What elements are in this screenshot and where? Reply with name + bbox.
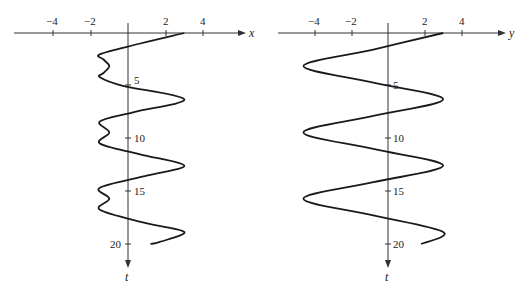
t-tick-label: 15 — [134, 185, 146, 197]
t-tick-label: 20 — [110, 238, 122, 250]
y-tick-label: 4 — [459, 15, 465, 27]
y-axis-label: y — [508, 26, 515, 40]
y-of-t-curve — [303, 33, 444, 244]
t-axis-arrow-icon — [385, 260, 391, 268]
t-tick-label: 20 — [393, 238, 405, 250]
x-axis-label: x — [248, 26, 255, 40]
t-tick-label: 10 — [134, 132, 146, 144]
x-tick-label: −4 — [46, 15, 58, 27]
t-tick-label: 10 — [393, 132, 405, 144]
x-tick-label: 4 — [200, 15, 206, 27]
t-tick-label: 5 — [134, 74, 140, 86]
y-tick-label: −4 — [308, 15, 320, 27]
t-axis-label: t — [125, 270, 129, 284]
y-axis-arrow-icon — [498, 30, 506, 36]
right-plot: y t −4 −2 2 4 5 10 15 20 — [278, 15, 515, 284]
x-tick-label: −2 — [84, 15, 96, 27]
y-tick-label: 2 — [422, 15, 428, 27]
t-axis-arrow-icon — [125, 260, 131, 268]
y-tick-label: −2 — [345, 15, 357, 27]
left-plot: x t −4 −2 2 4 5 10 15 20 — [14, 15, 255, 284]
x-tick-label: 2 — [163, 15, 169, 27]
x-axis-arrow-icon — [238, 30, 246, 36]
figure: x t −4 −2 2 4 5 10 15 20 y — [0, 0, 526, 284]
t-tick-label: 5 — [393, 79, 399, 91]
t-axis-label: t — [385, 270, 389, 284]
t-tick-label: 15 — [393, 185, 405, 197]
